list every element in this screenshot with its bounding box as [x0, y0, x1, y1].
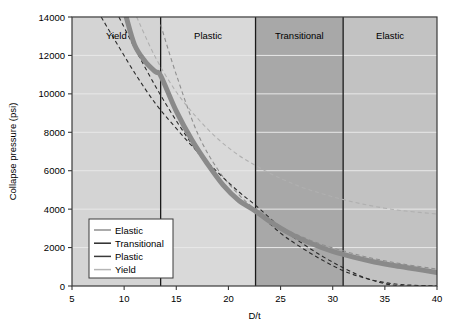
ytick-label-10000: 10000: [39, 88, 65, 99]
y-axis-title: Collapse pressure (psi): [7, 103, 18, 201]
region-label-elastic: Elastic: [376, 30, 404, 41]
xtick-label-40: 40: [432, 293, 443, 304]
legend-label-yield: Yield: [115, 264, 136, 275]
ytick-label-4000: 4000: [44, 204, 65, 215]
legend-label-transitional: Transitional: [115, 238, 164, 249]
xtick-label-15: 15: [171, 293, 182, 304]
legend-label-elastic: Elastic: [115, 225, 143, 236]
xtick-label-25: 25: [275, 293, 286, 304]
xtick-label-5: 5: [69, 293, 74, 304]
ytick-label-12000: 12000: [39, 50, 65, 61]
region-label-transitional: Transitional: [275, 30, 324, 41]
region-band-elastic: [343, 17, 437, 286]
xtick-label-35: 35: [380, 293, 391, 304]
region-label-plastic: Plastic: [194, 30, 222, 41]
region-band-plastic: [161, 17, 256, 286]
ytick-label-8000: 8000: [44, 127, 65, 138]
collapse-pressure-chart: 5101520253035400200040006000800010000120…: [0, 0, 456, 329]
ytick-label-6000: 6000: [44, 165, 65, 176]
region-label-yield: Yield: [106, 30, 127, 41]
xtick-label-30: 30: [327, 293, 338, 304]
x-axis-title: D/t: [248, 310, 261, 321]
xtick-label-20: 20: [223, 293, 234, 304]
ytick-label-0: 0: [60, 281, 65, 292]
legend-label-plastic: Plastic: [115, 251, 143, 262]
chart-canvas: 5101520253035400200040006000800010000120…: [0, 0, 456, 329]
ytick-label-2000: 2000: [44, 242, 65, 253]
xtick-label-10: 10: [119, 293, 130, 304]
ytick-label-14000: 14000: [39, 12, 65, 23]
